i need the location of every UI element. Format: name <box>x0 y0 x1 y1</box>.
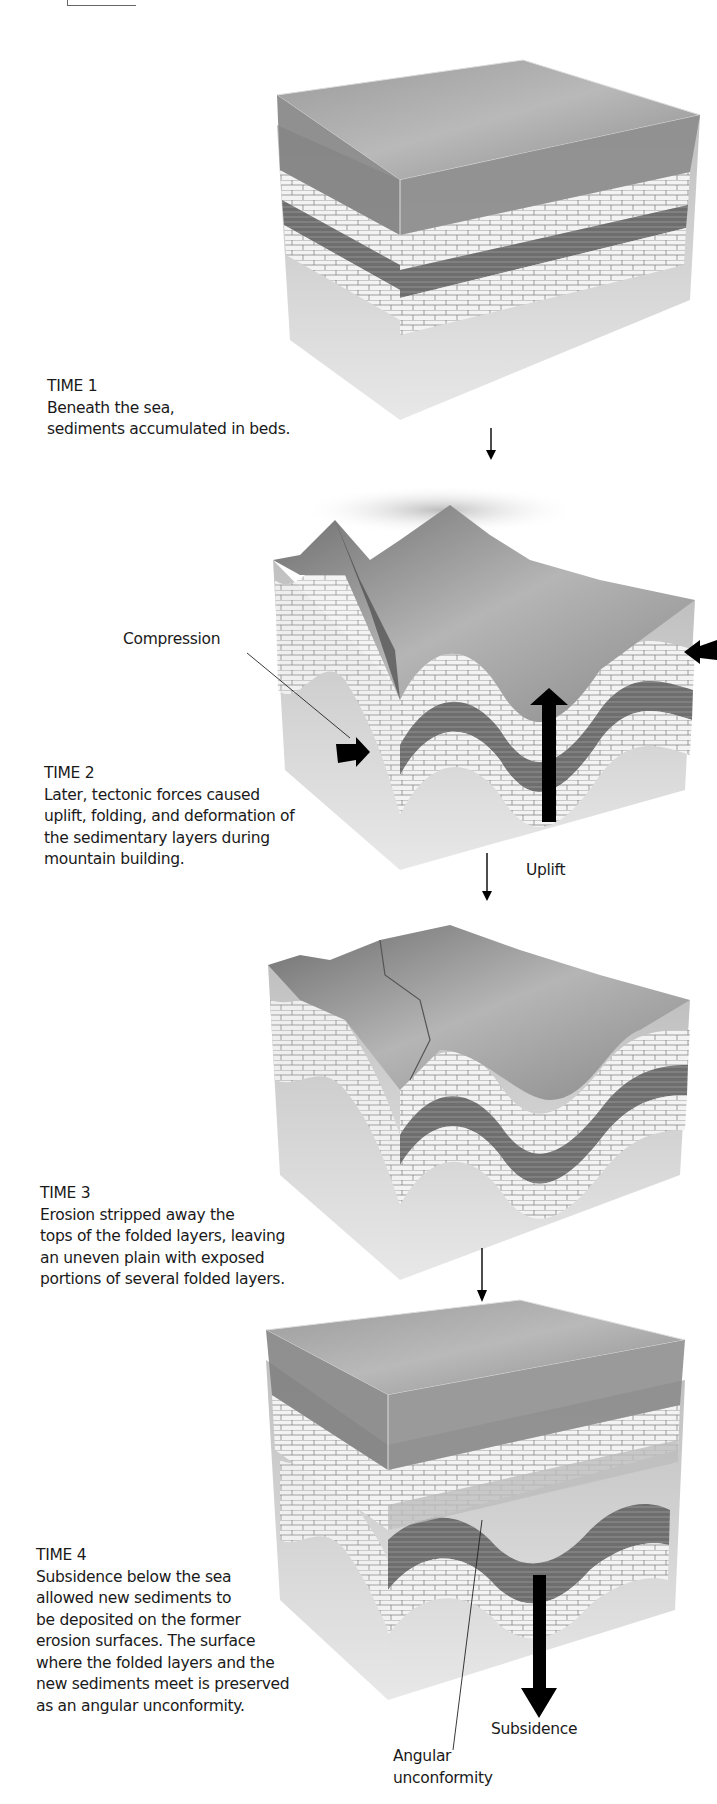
block-time-4 <box>266 1300 685 1750</box>
uplift-label: Uplift <box>526 861 565 879</box>
caption-time-2: TIME 2 Later, tectonic forces caused upl… <box>44 763 294 871</box>
block-diagram-illustration <box>0 0 717 1804</box>
angular-unconformity-label: Angular unconformity <box>393 1745 493 1789</box>
stage-title: TIME 2 <box>44 763 294 785</box>
block-time-3 <box>268 925 690 1280</box>
down-arrow-icon <box>477 1248 487 1302</box>
caption-time-3: TIME 3 Erosion stripped away the tops of… <box>40 1183 285 1291</box>
block-time-2 <box>247 485 717 870</box>
block-time-1 <box>277 60 700 420</box>
caption-time-4: TIME 4 Subsidence below the sea allowed … <box>36 1545 289 1717</box>
compression-label: Compression <box>123 630 220 648</box>
subsidence-label: Subsidence <box>491 1720 577 1738</box>
down-arrow-icon <box>482 853 492 901</box>
caption-time-1: TIME 1 Beneath the sea, sediments accumu… <box>47 376 290 441</box>
stage-title: TIME 4 <box>36 1545 289 1567</box>
down-arrow-icon <box>486 428 496 460</box>
stage-title: TIME 3 <box>40 1183 285 1205</box>
stage-title: TIME 1 <box>47 376 290 398</box>
